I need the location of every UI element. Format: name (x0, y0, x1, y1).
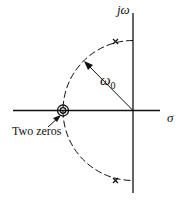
omega-symbol: ω (100, 72, 111, 88)
two-zeros-annotation: Two zeros (12, 124, 61, 139)
omega-subscript: 0 (111, 80, 116, 91)
imaginary-axis-label: jω (117, 2, 130, 18)
s-plane-diagram (0, 0, 185, 203)
radius-label: ω0 (100, 72, 116, 91)
real-axis-label: σ (167, 110, 173, 126)
upper-pole-x-icon (113, 39, 118, 44)
